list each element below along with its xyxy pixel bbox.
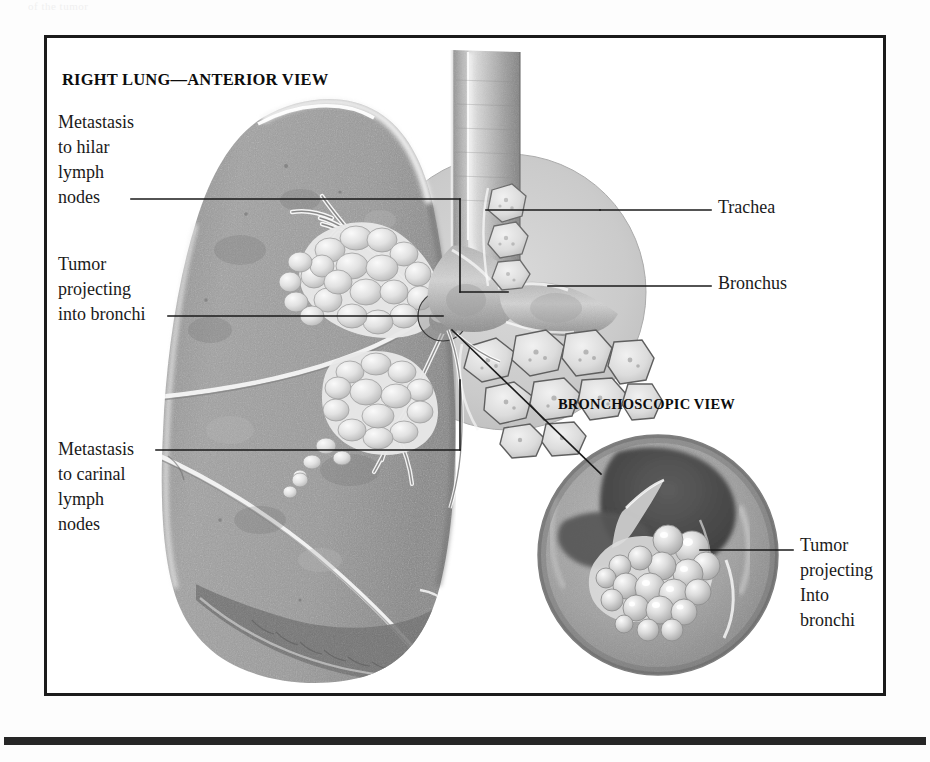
page-top-text-remnant: of the tumor xyxy=(28,0,168,12)
page-bottom-rule xyxy=(4,737,926,745)
label-metastasis-hilar-lymph-nodes: Metastasis to hilar lymph nodes xyxy=(58,110,188,210)
label-metastasis-carinal-lymph-nodes: Metastasis to carinal lymph nodes xyxy=(58,437,198,537)
page-title: RIGHT LUNG—ANTERIOR VIEW xyxy=(62,70,328,90)
inset-title: BRONCHOSCOPIC VIEW xyxy=(558,396,735,413)
label-tumor-projecting-into-bronchi-inset: Tumor projecting Into bronchi xyxy=(800,533,910,633)
label-tumor-projecting-into-bronchi: Tumor projecting into bronchi xyxy=(58,252,208,327)
label-bronchus: Bronchus xyxy=(718,271,787,296)
label-trachea: Trachea xyxy=(718,195,775,220)
